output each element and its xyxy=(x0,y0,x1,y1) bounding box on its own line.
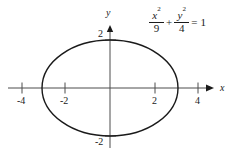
term2-numerator: y2 xyxy=(175,10,189,22)
term1-denominator: 9 xyxy=(151,23,163,35)
x-tick-label-2: 2 xyxy=(152,96,157,106)
x-tick-label-4: 4 xyxy=(195,96,200,106)
equation-term-2: y2 4 xyxy=(174,10,189,34)
equation-right-hand-side: 1 xyxy=(200,17,206,28)
y-tick-label-minus2: -2 xyxy=(95,137,103,147)
ellipse-graph-figure: -4 -2 2 4 2 -2 x y x2 9 + y2 4 = 1 xyxy=(0,0,233,155)
term2-denominator: 4 xyxy=(176,23,188,35)
term1-numerator: x2 xyxy=(149,10,163,22)
x-axis xyxy=(8,85,214,92)
equation-operator-plus: + xyxy=(166,17,172,28)
equation-equals-sign: = xyxy=(191,17,197,28)
equation-term-1: x2 9 xyxy=(149,10,164,34)
y-axis xyxy=(107,25,113,148)
x-axis-label: x xyxy=(220,83,224,93)
y-axis-label: y xyxy=(106,8,110,18)
x-tick-label-minus4: -4 xyxy=(17,96,25,106)
x-tick-label-minus2: -2 xyxy=(60,96,68,106)
y-tick-label-2: 2 xyxy=(98,29,103,39)
equation-annotation: x2 9 + y2 4 = 1 xyxy=(148,10,206,34)
